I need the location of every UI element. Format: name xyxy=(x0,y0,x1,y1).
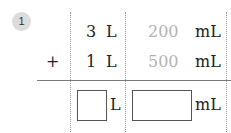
column-divider-left xyxy=(70,12,71,132)
plus-operator: + xyxy=(46,52,59,72)
column-divider-right xyxy=(226,12,227,132)
row1-milliliters-value: 200 xyxy=(148,22,179,42)
row1-liters-value: 3 xyxy=(86,22,96,42)
sum-line xyxy=(37,80,231,81)
answer-milliliters-unit: mL xyxy=(195,95,221,115)
row2-milliliters-unit: mL xyxy=(195,52,221,72)
row2-liters-unit: L xyxy=(106,52,117,72)
answer-milliliters-box[interactable] xyxy=(132,90,192,121)
row2-milliliters-value: 500 xyxy=(148,52,179,72)
row1-liters-unit: L xyxy=(106,22,117,42)
column-divider-middle xyxy=(125,12,126,132)
answer-liters-box[interactable] xyxy=(77,90,107,121)
row1-milliliters-unit: mL xyxy=(195,22,221,42)
row2-liters-value: 1 xyxy=(86,52,96,72)
problem-number-badge: 1 xyxy=(12,12,31,31)
answer-liters-unit: L xyxy=(110,95,121,115)
